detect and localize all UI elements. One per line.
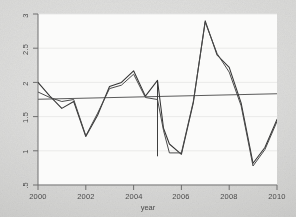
x-tick-label-2002: 2002 <box>75 192 97 201</box>
x-tick-label-2008: 2008 <box>218 192 240 201</box>
x-tick-label-2000: 2000 <box>27 192 49 201</box>
x-tick-label-2004: 2004 <box>123 192 145 201</box>
x-axis-title: year <box>0 203 296 212</box>
y-ticks <box>33 14 38 185</box>
y-tick-label-1-5: 1.5 <box>21 110 30 126</box>
y-tick-label-1: 1 <box>21 144 30 160</box>
y-tick-label-2: 2 <box>21 76 30 92</box>
y-tick-label-3: 3 <box>21 8 30 24</box>
x-ticks <box>38 185 277 190</box>
x-tick-label-2010: 2010 <box>266 192 288 201</box>
y-tick-label-2-5: 2.5 <box>21 42 30 58</box>
x-tick-label-2006: 2006 <box>170 192 192 201</box>
time-series-chart <box>0 0 296 217</box>
